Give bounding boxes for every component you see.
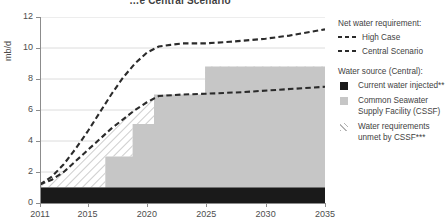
x-tick-label: 2030	[246, 209, 286, 219]
legend-item-current-water[interactable]: Current water injected**	[338, 80, 446, 91]
x-tick-mark	[147, 203, 148, 207]
y-tick-mark	[36, 172, 40, 173]
chart-legend: Net water requirement: High Case Central…	[338, 18, 446, 147]
chart-root: …e Central Scenario 024681012 20112015	[0, 0, 446, 223]
x-tick-label: 2015	[68, 209, 108, 219]
x-tick-mark	[88, 203, 89, 207]
hatched-square-icon	[340, 123, 348, 131]
legend-item-label: Common Seawater Supply Facility (CSSF)	[358, 95, 446, 117]
legend-item-label: Central Scenario	[362, 46, 446, 57]
gray-square-icon	[340, 97, 348, 105]
y-tick-label: 6	[0, 105, 33, 114]
y-tick-mark	[36, 48, 40, 49]
legend-item-cssf[interactable]: Common Seawater Supply Facility (CSSF)	[338, 95, 446, 117]
x-tick-mark	[206, 203, 207, 207]
x-tick-mark	[266, 203, 267, 207]
y-tick-label: 8	[0, 74, 33, 83]
x-tick-mark	[325, 203, 326, 207]
y-tick-mark	[36, 110, 40, 111]
black-square-icon	[340, 82, 348, 90]
y-tick-mark	[36, 141, 40, 142]
chart-title: …e Central Scenario	[60, 0, 300, 6]
x-tick-label: 2025	[186, 209, 226, 219]
y-tick-label: 4	[0, 136, 33, 145]
x-tick-mark	[40, 203, 41, 207]
x-tick-label: 2035	[305, 209, 345, 219]
current-water-area	[40, 188, 325, 204]
legend-item-high-case[interactable]: High Case	[338, 32, 446, 43]
legend-item-unmet[interactable]: Water requirements unmet by CSSF***	[338, 121, 446, 143]
dashed-line-icon	[338, 36, 358, 38]
plot-svg	[40, 17, 325, 203]
x-axis-line	[40, 203, 326, 204]
y-tick-label: 2	[0, 167, 33, 176]
y-tick-mark	[36, 17, 40, 18]
legend-heading-requirement: Net water requirement:	[338, 18, 446, 29]
x-tick-label: 2011	[20, 209, 60, 219]
x-tick-label: 2020	[127, 209, 167, 219]
legend-item-label: Water requirements unmet by CSSF***	[358, 121, 446, 143]
y-tick-mark	[36, 79, 40, 80]
dashed-line-icon	[338, 50, 358, 52]
legend-item-central-scenario[interactable]: Central Scenario	[338, 46, 446, 57]
y-axis-line	[40, 17, 41, 204]
plot-area	[40, 17, 325, 203]
y-axis-label: mb/d	[3, 29, 13, 73]
y-tick-label: 12	[0, 12, 33, 21]
legend-heading-source: Water source (Central):	[338, 66, 446, 77]
legend-item-label: Current water injected**	[358, 80, 446, 91]
legend-item-label: High Case	[362, 32, 446, 43]
y-tick-label: 0	[0, 198, 33, 207]
